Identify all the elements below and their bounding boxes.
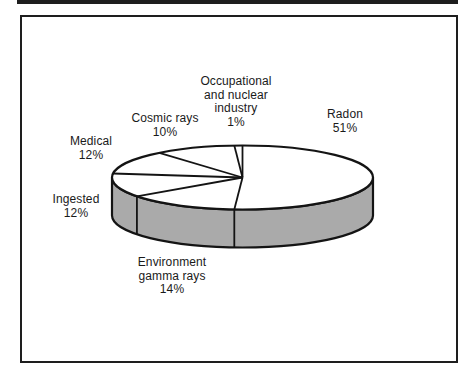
- label-line: gamma rays: [138, 270, 206, 284]
- label-percent: 14%: [138, 283, 206, 297]
- label-line: Cosmic rays: [131, 112, 198, 126]
- label-percent: 12%: [53, 207, 100, 221]
- label-line: Environment: [138, 256, 206, 270]
- label-ingested: Ingested 12%: [53, 193, 100, 220]
- label-line: Radon: [327, 108, 363, 122]
- label-percent: 51%: [327, 122, 363, 136]
- label-cosmic-rays: Cosmic rays 10%: [131, 112, 198, 139]
- label-medical: Medical 12%: [70, 135, 112, 162]
- label-line: Ingested: [53, 193, 100, 207]
- label-percent: 1%: [200, 116, 271, 130]
- label-line: Occupational: [200, 75, 271, 89]
- label-occupational-nuclear-industry: Occupational and nuclear industry 1%: [200, 75, 271, 129]
- label-environment-gamma-rays: Environment gamma rays 14%: [138, 256, 206, 297]
- label-line: Medical: [70, 135, 112, 149]
- label-percent: 10%: [131, 126, 198, 140]
- label-percent: 12%: [70, 149, 112, 163]
- figure-page: Occupational and nuclear industry 1% Rad…: [0, 0, 475, 384]
- label-line: industry: [200, 102, 271, 116]
- label-radon: Radon 51%: [327, 108, 363, 135]
- label-line: and nuclear: [200, 89, 271, 103]
